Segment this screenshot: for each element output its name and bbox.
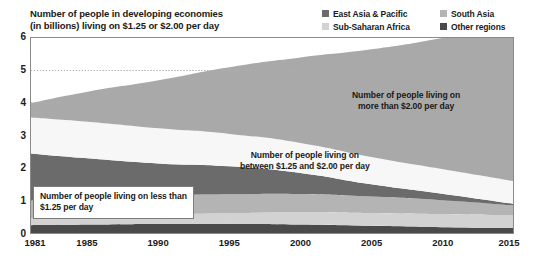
chart-title: Number of people in developing economies… [30,8,300,31]
chart-title-line2: (in billions) living on $1.25 or $2.00 p… [30,20,300,32]
y-axis: 6543210 [0,0,26,263]
y-axis-tick: 4 [0,98,26,108]
annotation-below-line1: Number of people living on less than [40,191,187,202]
chart-container: Number of people in developing economies… [0,0,536,263]
x-axis-tick: 2015 [498,238,519,248]
chart-legend: East Asia & Pacific Sub-Saharan Africa S… [322,9,530,35]
annotation-between-band: Number of people living on between $1.25… [240,150,370,172]
annotation-between-band-line2: between $1.25 and $2.00 per day [240,161,370,172]
annotation-below-line2: $1.25 per day [40,202,187,213]
legend-swatch-east-asia-pacific [322,10,329,17]
legend-swatch-sub-saharan-africa [322,23,329,30]
legend-label-south-asia: South Asia [451,9,494,19]
y-axis-tick: 5 [0,65,26,75]
legend-item-south-asia: South Asia [440,9,494,19]
y-axis-tick: 3 [0,131,26,141]
legend-label-sub-saharan-africa: Sub-Saharan Africa [333,22,410,32]
annotation-above-two-dollars: Number of people living on more than $2.… [352,90,460,112]
y-axis-tick: 2 [0,163,26,173]
x-axis: 19811985199019952000200520102015 [0,238,536,256]
annotation-between-band-line1: Number of people living on [240,150,370,161]
x-axis-tick: 1985 [76,238,97,248]
x-axis-tick: 2005 [361,238,382,248]
y-axis-tick: 1 [0,196,26,206]
x-axis-tick: 2010 [432,238,453,248]
x-axis-tick: 1981 [24,238,45,248]
legend-item-east-asia-pacific: East Asia & Pacific [322,9,407,19]
legend-swatch-south-asia [440,10,447,17]
chart-title-line1: Number of people in developing economies [30,8,300,20]
legend-label-east-asia-pacific: East Asia & Pacific [333,9,407,19]
legend-label-other-regions: Other regions [451,22,505,32]
legend-swatch-other-regions [440,23,447,30]
legend-item-sub-saharan-africa: Sub-Saharan Africa [322,22,410,32]
x-axis-tick: 2000 [290,238,311,248]
annotation-below-one-twentyfive: Number of people living on less than $1.… [33,186,194,219]
annotation-above-two-dollars-line2: more than $2.00 per day [352,101,460,112]
x-axis-tick: 1990 [148,238,169,248]
annotation-above-two-dollars-line1: Number of people living on [352,90,460,101]
x-axis-tick: 1995 [219,238,240,248]
y-axis-tick: 6 [0,32,26,42]
legend-item-other-regions: Other regions [440,22,505,32]
